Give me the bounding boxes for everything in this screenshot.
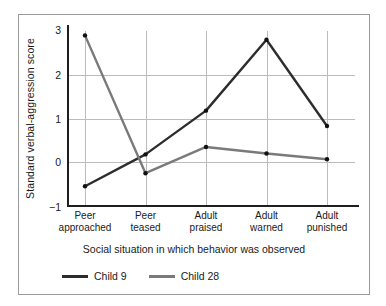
x-tick-label: Adultwarned [250,210,283,234]
legend-line-icon [149,275,175,278]
data-point-marker [83,184,87,188]
x-tick-label-line: Peer [130,210,160,222]
legend-item[interactable]: Child 28 [149,270,220,282]
legend-label: Child 28 [181,270,220,282]
x-tick-label-line: Adult [307,210,348,222]
data-point-marker [204,145,208,149]
legend-item[interactable]: Child 9 [62,270,127,282]
data-point-marker [83,33,87,37]
y-tick-label: 2 [55,69,61,81]
x-tick-label: Peerteased [130,210,160,234]
x-axis-title: Social situation in which behavior was o… [18,243,370,255]
x-tick-label: Peerapproached [59,210,112,234]
data-point-marker [143,152,147,156]
x-tick-label-line: Adult [190,210,223,222]
chart-legend: Child 9Child 28 [62,270,219,282]
y-axis-title: Standard verbal-aggression score [24,31,38,206]
x-tick-label-line: Adult [250,210,283,222]
y-tick-label: 3 [55,24,61,36]
x-tick-label-line: teased [130,222,160,234]
series-layer [67,31,355,206]
x-tick-label: Adultpraised [190,210,223,234]
data-point-marker [204,108,208,112]
x-tick-label-line: approached [59,222,112,234]
x-tick-label-line: warned [250,222,283,234]
legend-line-icon [62,275,88,278]
y-tick-label: 0 [55,156,61,168]
legend-label: Child 9 [94,270,127,282]
data-point-marker [325,157,329,161]
x-tick-label-line: Peer [59,210,112,222]
data-point-marker [264,38,268,42]
data-point-marker [325,124,329,128]
series-line [85,35,327,173]
data-point-marker [143,171,147,175]
x-tick-label: Adultpunished [307,210,348,234]
data-point-marker [264,151,268,155]
x-axis-ticks: PeerapproachedPeerteasedAdultpraisedAdul… [67,210,367,240]
series-line [85,40,327,187]
x-tick-label-line: praised [190,222,223,234]
y-tick-label: 1 [55,113,61,125]
plot-region: 3210−1 [67,31,355,206]
plot-area: 3210−1 [67,31,355,206]
x-tick-label-line: punished [307,222,348,234]
